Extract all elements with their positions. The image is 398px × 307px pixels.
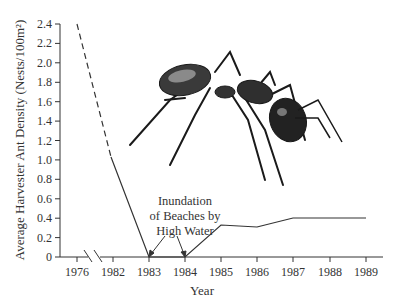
svg-text:1976: 1976 xyxy=(65,265,89,279)
x-axis-title: Year xyxy=(190,283,215,298)
svg-text:1986: 1986 xyxy=(245,265,269,279)
svg-text:of Beaches by: of Beaches by xyxy=(150,209,222,223)
svg-text:1.6: 1.6 xyxy=(37,95,52,109)
svg-text:1.0: 1.0 xyxy=(37,153,52,167)
svg-text:1987: 1987 xyxy=(281,265,305,279)
x-axis xyxy=(60,250,383,262)
svg-text:1988: 1988 xyxy=(318,265,342,279)
svg-text:Inundation: Inundation xyxy=(158,194,213,208)
svg-text:0.6: 0.6 xyxy=(37,192,52,206)
dashed-segment xyxy=(77,24,111,157)
svg-text:0.8: 0.8 xyxy=(37,172,52,186)
svg-text:1985: 1985 xyxy=(209,265,233,279)
svg-text:2.0: 2.0 xyxy=(37,56,52,70)
svg-text:1984: 1984 xyxy=(173,265,197,279)
data-series xyxy=(77,24,366,257)
svg-text:0: 0 xyxy=(46,250,52,264)
y-tick-labels: 2.4 2.2 2.0 1.8 1.6 1.4 1.2 1.0 0.8 0.6 … xyxy=(37,17,52,264)
annotation-inundation: Inundation of Beaches by High Water xyxy=(149,194,221,257)
svg-text:2.2: 2.2 xyxy=(37,36,52,50)
svg-text:0.4: 0.4 xyxy=(37,211,52,225)
svg-text:2.4: 2.4 xyxy=(37,17,52,31)
svg-text:1.8: 1.8 xyxy=(37,75,52,89)
svg-text:1989: 1989 xyxy=(354,265,378,279)
chart: 2.4 2.2 2.0 1.8 1.6 1.4 1.2 1.0 0.8 0.6 … xyxy=(0,0,398,307)
y-axis-title: Average Harvester Ant Density (Nests/100… xyxy=(12,20,27,260)
x-tick-labels: 1976 1982 1983 1984 1985 1986 1987 1988 … xyxy=(65,265,378,279)
svg-text:High Water: High Water xyxy=(156,224,214,238)
ant-illustration xyxy=(130,52,342,185)
svg-text:0.2: 0.2 xyxy=(37,231,52,245)
solid-segment xyxy=(111,157,366,257)
svg-text:1.2: 1.2 xyxy=(37,134,52,148)
svg-text:1.4: 1.4 xyxy=(37,114,52,128)
svg-text:1983: 1983 xyxy=(137,265,161,279)
y-axis xyxy=(55,24,60,257)
svg-text:1982: 1982 xyxy=(101,265,125,279)
